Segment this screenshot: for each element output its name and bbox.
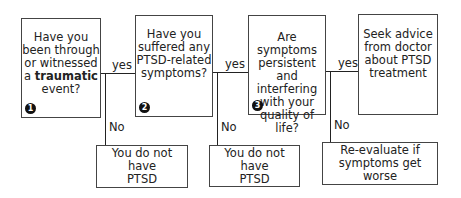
q3-line6: life? — [249, 122, 325, 135]
outcome-box-3: Re-evaluate if symptoms get worse — [322, 142, 438, 185]
no-connector-3 — [330, 71, 331, 142]
step-number-1-icon: 1 — [25, 103, 36, 114]
outcome-3-line2: symptoms get worse — [323, 157, 437, 183]
final-line4: treatment — [359, 67, 437, 80]
q3-line1: Are symptoms — [249, 31, 325, 57]
step-number-2-icon: 2 — [139, 102, 150, 113]
q3-line2: persistent and — [249, 57, 325, 83]
question-box-1: Have you been through or witnessed a tra… — [21, 18, 101, 118]
yes-connector-2 — [213, 72, 248, 73]
outcome-box-1: You do not have PTSD — [96, 145, 188, 188]
q2-line4: symptoms? — [136, 67, 212, 80]
q1-line5: event? — [22, 83, 100, 96]
no-label-2: No — [221, 120, 237, 134]
yes-label-2: yes — [225, 57, 245, 71]
outcome-1-line2: PTSD — [97, 173, 187, 186]
outcome-box-2: You do not have PTSD — [209, 145, 300, 187]
seek-advice-box: Seek advice from doctor about PTSD treat… — [358, 14, 438, 115]
yes-label-3: yes — [338, 56, 358, 70]
no-label-1: No — [109, 120, 125, 134]
no-connector-1 — [105, 73, 106, 145]
step-number-3-icon: 3 — [252, 100, 263, 111]
outcome-1-line1: You do not have — [97, 147, 187, 173]
yes-connector-1 — [101, 73, 135, 74]
no-connector-2 — [217, 72, 218, 145]
outcome-2-line2: PTSD — [210, 173, 299, 186]
yes-label-1: yes — [112, 58, 132, 72]
no-label-3: No — [334, 118, 350, 132]
outcome-2-line1: You do not have — [210, 147, 299, 173]
question-box-3: Are symptoms persistent and interfering … — [248, 15, 326, 115]
question-box-2: Have you suffered any PTSD-related sympt… — [135, 15, 213, 117]
traumatic-emphasis: traumatic — [35, 69, 98, 83]
